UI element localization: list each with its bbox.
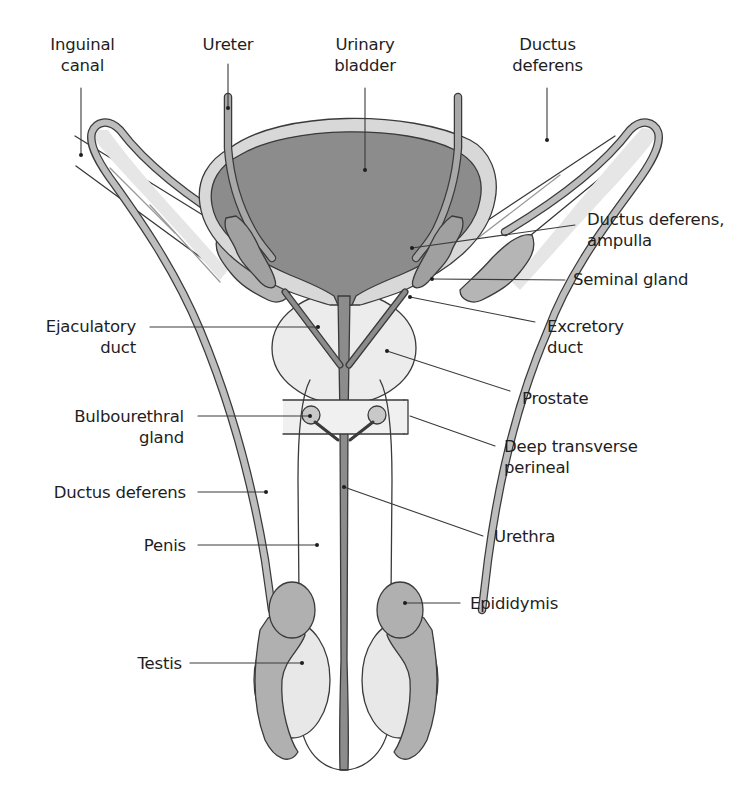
label-epididymis: Epididymis <box>470 593 558 614</box>
label-penis: Penis <box>120 535 186 556</box>
label-testis: Testis <box>120 653 182 674</box>
label-ejaculatory-duct: Ejaculatory duct <box>30 316 136 358</box>
label-excretory-duct: Excretory duct <box>547 316 624 358</box>
label-seminal-gland: Seminal gland <box>573 269 688 290</box>
label-ductus-deferens-ampulla: Ductus deferens, ampulla <box>587 209 724 251</box>
label-prostate: Prostate <box>522 388 588 409</box>
label-ductus-deferens-top: Ductus deferens <box>505 34 590 76</box>
label-urinary-bladder: Urinary bladder <box>325 34 405 76</box>
label-urethra: Urethra <box>494 526 555 547</box>
label-ductus-deferens-side: Ductus deferens <box>40 482 186 503</box>
label-ureter: Ureter <box>195 34 261 55</box>
label-deep-transverse-perineal: Deep transverse perineal <box>504 436 638 478</box>
label-inguinal-canal: Inguinal canal <box>45 34 120 76</box>
urogenital-diagram <box>0 0 753 792</box>
label-bulbourethral-gland: Bulbourethral gland <box>60 406 184 448</box>
